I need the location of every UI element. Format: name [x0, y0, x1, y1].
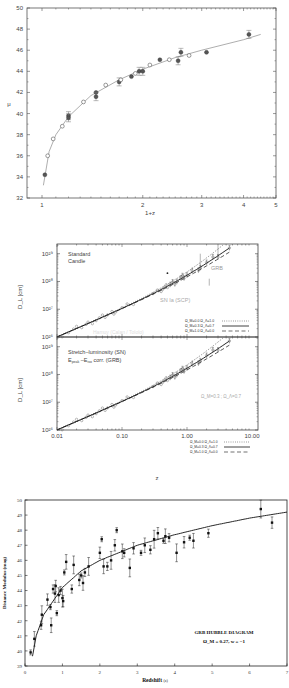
- data-point: [67, 116, 71, 120]
- y-tick-label: 49: [17, 513, 23, 518]
- y-tick-label: 10²⁶: [42, 334, 54, 340]
- data-point: [91, 415, 93, 417]
- y-tick-label: 48: [16, 26, 23, 32]
- y-tick-label: 34: [16, 174, 23, 180]
- data-point: [71, 588, 73, 590]
- x-tick-label: 5: [274, 202, 278, 208]
- data-point: [52, 588, 54, 590]
- data-point: [162, 540, 164, 542]
- data-point: [82, 582, 84, 584]
- y-tick-label: 42: [16, 89, 23, 95]
- chart-grb-hubble-diagram: 394041424344454647484950 01234567 GRB HU…: [2, 498, 289, 683]
- y-axis-ticks: 32343638404244464850: [16, 5, 276, 201]
- data-point: [81, 326, 83, 328]
- data-point: [102, 565, 104, 567]
- data-point: [56, 612, 58, 614]
- legend-label: Ω_M=1.0 Ω_Λ=0.0: [190, 450, 218, 454]
- data-point: [101, 538, 103, 540]
- data-point: [141, 69, 145, 73]
- y-tick-label: 47: [17, 543, 23, 548]
- y-tick-label: 46: [17, 558, 23, 563]
- data-point: [54, 585, 56, 587]
- y-tick-label: 10²⁹: [42, 251, 54, 257]
- data-point: [78, 579, 80, 581]
- y-tick-label: 48: [17, 528, 23, 533]
- data-point: [192, 540, 194, 542]
- chart-title: GRB HUBBLE DIAGRAM: [194, 630, 253, 635]
- data-point: [75, 418, 77, 420]
- plot-frame: [25, 500, 287, 666]
- plot-frame: [27, 8, 276, 198]
- data-point: [119, 78, 123, 82]
- y-axis-label: Distance Modulus (mag): [2, 557, 7, 610]
- y-tick-label: 32: [16, 195, 23, 201]
- data-point: [158, 58, 162, 62]
- data-point: [33, 638, 35, 640]
- data-point: [99, 552, 101, 554]
- data-point: [81, 419, 83, 421]
- chart-distance-modulus-vs-1plusz: 32343638404244464850 12345 1+z μ: [7, 5, 278, 216]
- data-point: [140, 552, 142, 554]
- y-tick-label: 43: [17, 603, 23, 608]
- x-tick-label: 4: [242, 202, 246, 208]
- data-point: [260, 508, 262, 510]
- data-point: [126, 303, 128, 305]
- x-axis-ticks: 01234567: [24, 664, 289, 676]
- data-point: [179, 50, 183, 54]
- legend-label: Ω_M=0.3 Ω_Λ=0.7: [190, 445, 218, 449]
- x-tick-label: 6: [248, 670, 251, 675]
- data-point: [176, 59, 180, 63]
- data-point: [113, 313, 115, 315]
- annotation-candle: Candle: [68, 258, 85, 264]
- x-tick-label: 10.00: [244, 433, 260, 439]
- annotation-hamuy: Hamuy (Calan / Tololo): [93, 329, 144, 335]
- legend: Ω_M=0.0 Ω_Λ=1.0 Ω_M=0.3 Ω_Λ=0.7 Ω_M=1.0 …: [185, 319, 249, 333]
- data-point: [129, 75, 133, 79]
- x-tick-label: 7: [286, 670, 289, 675]
- x-axis-label: 1+z: [145, 210, 155, 216]
- y-axis-label-top: D_L [cm]: [17, 285, 23, 309]
- annotation-stretch-luminosity: Stretch–luminosity (SN): [68, 349, 126, 355]
- chart-luminosity-distance-standard-candle: Standard Candle GRB SN Ia (SCP) Hamuy (C…: [42, 244, 258, 340]
- y-tick-label: 44: [17, 588, 23, 593]
- x-tick-label: 1.00: [181, 433, 193, 439]
- chart-subtitle: Ω_M = 0.27, w = −1: [203, 639, 246, 644]
- data-point: [51, 137, 55, 141]
- data-point: [114, 544, 116, 546]
- y-tick-label: 50: [17, 498, 23, 503]
- y-tick-label: 41: [17, 634, 23, 639]
- x-tick-label: 0.10: [116, 433, 128, 439]
- data-point: [29, 651, 31, 653]
- legend-label: Ω_M=1.0 Ω_Λ=0.0: [185, 329, 214, 333]
- data-point: [87, 414, 89, 416]
- legend-label: Ω_M=0.3 Ω_Λ=0.7: [185, 324, 214, 328]
- data-point: [132, 547, 134, 549]
- data-point: [50, 624, 52, 626]
- data-point: [183, 541, 185, 543]
- data-point: [110, 559, 112, 561]
- x-tick-label: 3: [136, 670, 139, 675]
- data-point: [164, 535, 166, 537]
- annotation-model: Ω_M=0.3 ; Ω_Λ=0.7: [201, 394, 242, 399]
- data-point: [104, 83, 108, 87]
- data-points: [43, 30, 252, 176]
- y-tick-label: 10²⁷: [42, 399, 53, 405]
- x-tick-label: 2: [141, 202, 145, 208]
- data-point: [46, 154, 50, 158]
- y-tick-label: 10²⁹: [42, 344, 54, 350]
- data-point: [104, 316, 106, 318]
- data-point: [144, 544, 146, 546]
- y-tick-label: 42: [17, 619, 23, 624]
- x-tick-label: 5: [211, 670, 214, 675]
- data-point: [60, 124, 64, 128]
- annotation-sn-ia-scp: SN Ia (SCP): [160, 297, 190, 303]
- data-point: [40, 624, 42, 626]
- data-point: [247, 32, 251, 36]
- y-axis-label: μ: [7, 101, 11, 107]
- data-point: [153, 538, 155, 540]
- data-point: [126, 396, 128, 398]
- x-tick-label: 1: [61, 670, 64, 675]
- data-point: [132, 303, 134, 305]
- annotation-epeak-eiso: Epeak –Eiso corr. (GRB): [68, 357, 122, 364]
- data-point: [156, 382, 158, 384]
